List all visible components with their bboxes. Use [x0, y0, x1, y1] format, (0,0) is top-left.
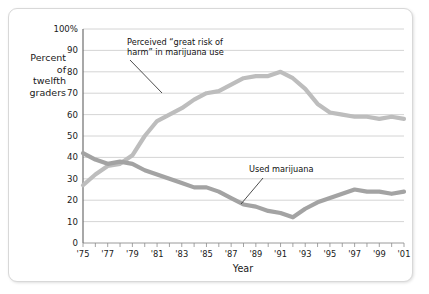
x-tick-label: '87: [225, 249, 238, 259]
line-chart: 0102030405060708090100% '75'77'79'81'83'…: [0, 0, 429, 294]
x-tick-label: '75: [77, 249, 90, 259]
y-tick-label: 10: [67, 217, 78, 227]
series-line: [83, 72, 404, 185]
y-tick-label: 20: [67, 195, 78, 205]
x-axis-title: Year: [232, 263, 253, 274]
risk-annotation-line-1: Perceived “great risk of: [127, 37, 224, 47]
x-tick-label: '89: [249, 249, 262, 259]
x-tick-label: '93: [299, 249, 312, 259]
x-tick-label: '79: [126, 249, 139, 259]
x-tick-marks: [83, 243, 404, 247]
x-tick-label: '81: [151, 249, 164, 259]
y-tick-label: 40: [67, 152, 78, 162]
y-tick-label: 60: [67, 110, 78, 120]
x-tick-label: '85: [200, 249, 213, 259]
x-tick-labels: '75'77'79'81'83'85'87'89'91'93'95'97'99'…: [77, 249, 411, 259]
x-tick-label: '95: [324, 249, 337, 259]
risk-annotation-leader-line: [130, 60, 162, 93]
x-tick-label: '99: [373, 249, 386, 259]
series-line: [83, 153, 404, 217]
y-tick-label: 30: [67, 174, 78, 184]
y-tick-label: 90: [67, 45, 78, 55]
x-tick-label: '91: [274, 249, 287, 259]
x-tick-label: '83: [175, 249, 188, 259]
x-tick-label: '97: [348, 249, 361, 259]
risk-annotation-line-2: harm” in marijuana use: [127, 47, 224, 57]
y-tick-label: 80: [67, 67, 78, 77]
data-series-layer: [83, 72, 404, 218]
x-tick-label: '77: [101, 249, 114, 259]
y-tick-label: 50: [67, 131, 78, 141]
y-tick-labels: 0102030405060708090100%: [53, 24, 78, 248]
use-annotation-label: Used marijuana: [249, 164, 313, 174]
y-tick-label: 70: [67, 88, 78, 98]
y-tick-label: 0: [73, 238, 78, 248]
y-tick-label: 100%: [53, 24, 78, 34]
x-tick-label: '01: [398, 249, 411, 259]
